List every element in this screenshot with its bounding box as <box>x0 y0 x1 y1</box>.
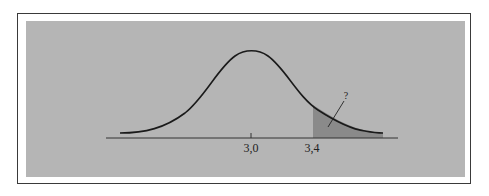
tick-label-mean: 3,0 <box>244 141 259 155</box>
normal-curve-chart: 3,0 3,4 ? <box>0 0 489 196</box>
tick-label-cutoff: 3,4 <box>305 141 320 155</box>
unknown-area-label: ? <box>344 90 349 101</box>
shaded-tail-area <box>313 105 383 138</box>
